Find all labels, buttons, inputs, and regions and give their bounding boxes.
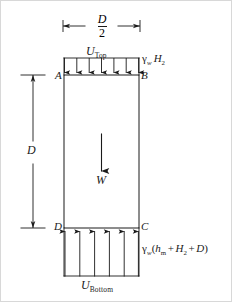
- corner-label-a: A: [55, 70, 62, 81]
- width-dimension-denominator: 2: [89, 27, 115, 40]
- weight-label: W: [96, 174, 106, 186]
- bottom-resultant-symbol: U: [81, 278, 90, 292]
- bottom-pressure-intensity-label: γw(hm+H2+D): [142, 243, 208, 257]
- paren-close: ): [204, 242, 208, 254]
- width-dimension-label: D 2: [89, 13, 115, 39]
- width-dimension-numerator: D: [89, 13, 115, 26]
- corner-label-d: D: [54, 221, 62, 232]
- bottom-pressure-block: [64, 228, 139, 276]
- plus-sign-1: +: [166, 242, 175, 254]
- bottom-resultant-label: UBottom: [81, 279, 113, 294]
- top-resultant-label: UTop: [86, 45, 107, 60]
- bottom-resultant-subscript: Bottom: [90, 285, 114, 294]
- figure-container: D 2 D UTop γwH2 A B W D C γw(hm+H2+D) UB…: [0, 0, 232, 302]
- top-resultant-symbol: U: [86, 44, 95, 58]
- top-pressure-intensity-label: γwH2: [142, 53, 165, 67]
- plus-sign-2: +: [187, 242, 196, 254]
- corner-label-b: B: [141, 70, 148, 81]
- top-intensity-term-subscript: 2: [162, 59, 166, 66]
- top-resultant-subscript: Top: [95, 51, 107, 60]
- bottom-pressure-arrows: [65, 232, 138, 277]
- gamma-subscript-top: w: [147, 59, 152, 66]
- top-intensity-term: H: [154, 52, 162, 64]
- corner-label-c: C: [141, 221, 148, 232]
- depth-dimension-label: D: [27, 144, 36, 156]
- top-pressure-arrows: [65, 59, 139, 73]
